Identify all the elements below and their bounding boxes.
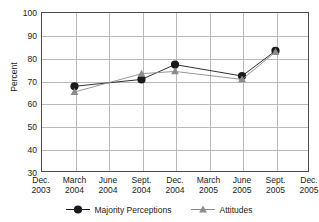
legend-item[interactable]: Attitudes [191,204,252,215]
y-tick-label: 80 [7,55,37,64]
chart-figure: Percent 100 90 80 70 60 50 40 30 [0,0,319,222]
circle-marker-icon [171,60,179,68]
x-tick-label-line: 2005 [286,186,319,196]
y-tick-label: 90 [7,32,37,41]
legend-label: Majority Perceptions [94,205,171,215]
data-series-layer [41,12,309,172]
y-tick-label: 40 [7,146,37,155]
circle-marker-icon [66,204,90,215]
triangle-marker-icon [191,204,215,215]
y-tick-label: 60 [7,100,37,109]
y-tick-label: 100 [7,9,37,18]
x-tick-label: Dec.2005 [286,176,319,196]
y-tick-label: 70 [7,78,37,87]
clipped-title-fragment [90,0,230,7]
chart-legend: Majority PerceptionsAttitudes [0,204,319,215]
legend-item[interactable]: Majority Perceptions [66,204,171,215]
legend-label: Attitudes [219,205,252,215]
y-tick-label: 50 [7,123,37,132]
triangle-marker-icon [171,68,179,75]
